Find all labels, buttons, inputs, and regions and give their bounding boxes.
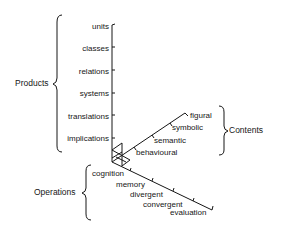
content-label-figural: figural [190, 111, 212, 120]
operations-title: Operations [34, 188, 76, 197]
products-title: Products [15, 79, 49, 88]
contents-brace [219, 106, 228, 155]
product-label-classes: classes [82, 44, 109, 53]
contents-title: Contents [229, 126, 263, 135]
operation-label-cognition: cognition [92, 169, 124, 178]
products-brace [53, 15, 62, 152]
content-label-symbolic: symbolic [172, 123, 203, 132]
product-label-translations: translations [68, 112, 109, 121]
content-label-behavioural: behavioural [136, 148, 177, 157]
product-label-implications: implications [67, 134, 109, 143]
operation-label-divergent: divergent [130, 190, 163, 199]
operation-label-evaluation: evaluation [170, 208, 206, 217]
operation-label-memory: memory [116, 180, 145, 189]
content-label-semantic: semantic [154, 136, 186, 145]
product-label-relations: relations [79, 67, 109, 76]
product-label-units: units [92, 22, 109, 31]
structure-of-intellect-diagram: Products units classes relations systems… [0, 0, 282, 231]
product-label-systems: systems [80, 89, 109, 98]
operations-brace [82, 165, 91, 220]
